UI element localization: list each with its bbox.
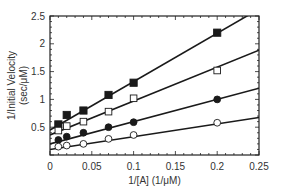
- y-tick-label: 1: [39, 94, 45, 105]
- point-filled-circle: [80, 129, 87, 136]
- point-filled-circle: [105, 124, 112, 131]
- point-open-square: [63, 123, 70, 130]
- x-axis-label: 1/[A] (1/μM): [128, 175, 180, 186]
- y-tick-label: 2: [39, 38, 45, 49]
- point-open-circle: [130, 132, 137, 139]
- point-open-circle: [105, 135, 112, 142]
- point-open-square: [105, 108, 112, 115]
- fit-lines: [50, 9, 259, 149]
- point-open-square: [80, 118, 87, 125]
- point-open-circle: [63, 142, 70, 149]
- point-open-square: [214, 67, 221, 74]
- point-open-circle: [55, 143, 62, 150]
- point-filled-circle: [214, 96, 221, 103]
- y-tick-label: 0.5: [31, 122, 45, 133]
- x-tick-label: 0.15: [166, 161, 186, 172]
- point-filled-circle: [55, 137, 62, 144]
- point-filled-square: [80, 107, 87, 114]
- point-open-circle: [214, 119, 221, 126]
- x-tick-label: 0.2: [210, 161, 224, 172]
- y-tick-label: 2.5: [31, 11, 45, 22]
- x-tick-label: 0.05: [82, 161, 102, 172]
- y-axis-label-line2: (sec/μM): [18, 66, 29, 105]
- y-axis-label-line1: 1/Initial Velocity: [6, 51, 17, 120]
- point-open-square: [130, 95, 137, 102]
- y-tick-label: 1.5: [31, 66, 45, 77]
- point-filled-circle: [130, 119, 137, 126]
- point-filled-square: [105, 91, 112, 98]
- point-filled-circle: [63, 133, 70, 140]
- x-tick-labels: 00.050.10.150.20.25: [47, 161, 269, 172]
- point-open-circle: [80, 140, 87, 147]
- x-tick-label: 0: [47, 161, 53, 172]
- x-tick-label: 0.1: [127, 161, 141, 172]
- point-filled-square: [130, 79, 137, 86]
- y-tick-labels: 0.511.522.5: [31, 11, 45, 133]
- x-tick-label: 0.25: [249, 161, 269, 172]
- lineweaver-burk-chart: 00.050.10.150.20.25 0.511.522.5 1/[A] (1…: [0, 0, 281, 196]
- point-filled-square: [63, 111, 70, 118]
- point-filled-square: [214, 29, 221, 36]
- data-points: [55, 29, 221, 150]
- point-open-square: [55, 127, 62, 134]
